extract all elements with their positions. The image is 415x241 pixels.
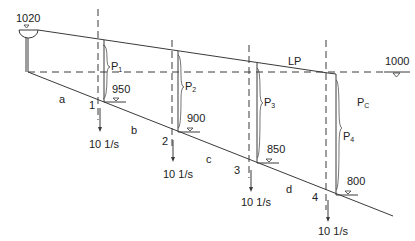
pressure-label-1: P1 — [111, 61, 122, 73]
reference-elevation: 1000 — [385, 56, 409, 67]
node-id-3: 3 — [234, 165, 240, 176]
demand-label-1: 10 1/s — [89, 139, 119, 150]
pipe-label-b: b — [131, 125, 137, 136]
node-elevation-1: 950 — [112, 84, 130, 95]
pipe-label-c: c — [206, 154, 212, 165]
node-id-2: 2 — [162, 136, 168, 147]
node-id-1: 1 — [89, 100, 95, 111]
node-elevation-4: 800 — [347, 176, 365, 187]
energy-line-label: LP — [288, 56, 301, 67]
pipe-label-d: d — [286, 184, 292, 195]
demand-label-3: 10 1/s — [241, 197, 271, 208]
demand-label-2: 10 1/s — [163, 169, 193, 180]
pressure-region-label: PC — [357, 97, 369, 109]
demand-label-4: 10 1/s — [318, 226, 348, 237]
pipe-label-a: a — [59, 94, 65, 105]
node-id-4: 4 — [312, 192, 318, 203]
pressure-label-4: P4 — [343, 131, 354, 143]
reservoir-elevation: 1020 — [16, 13, 40, 24]
node-elevation-3: 850 — [267, 144, 285, 155]
pressure-label-3: P3 — [264, 97, 275, 109]
reservoir-icon — [19, 30, 38, 38]
pipeline-diagram — [0, 0, 415, 241]
energy-line — [38, 30, 328, 73]
pipeline — [28, 72, 393, 216]
node-elevation-2: 900 — [187, 113, 205, 124]
pressure-label-2: P2 — [185, 81, 196, 93]
water-level-icon — [393, 73, 400, 77]
water-level-icon — [24, 25, 29, 28]
